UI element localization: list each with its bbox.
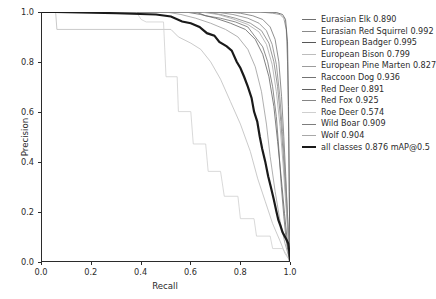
curve-eurasian-red-squirrel bbox=[42, 12, 290, 261]
legend-item[interactable]: Eurasian Elk 0.890 bbox=[302, 14, 432, 26]
legend-label: European Bison 0.799 bbox=[321, 49, 410, 61]
x-tick-label: 1.0 bbox=[283, 267, 296, 277]
legend-item[interactable]: all classes 0.876 mAP@0.5 bbox=[302, 142, 432, 154]
legend-label: European Badger 0.995 bbox=[321, 37, 417, 49]
y-tick-label: 0.4 bbox=[21, 157, 34, 167]
legend-swatch-line-icon bbox=[302, 19, 316, 20]
y-tick-mark bbox=[38, 262, 41, 263]
y-tick-mark bbox=[38, 112, 41, 113]
curve-roe-deer bbox=[42, 12, 290, 261]
legend-swatch-line-icon bbox=[302, 42, 316, 43]
legend-label: all classes 0.876 mAP@0.5 bbox=[321, 142, 430, 154]
curve-wild-boar bbox=[42, 12, 290, 261]
curve-eurasian-elk bbox=[42, 12, 290, 261]
x-tick-label: 0.2 bbox=[84, 267, 97, 277]
legend-label: Eurasian Red Squirrel 0.992 bbox=[321, 26, 434, 38]
y-tick-label: 0.6 bbox=[21, 107, 34, 117]
legend-item[interactable]: Wolf 0.904 bbox=[302, 130, 432, 142]
legend-label: Wild Boar 0.909 bbox=[321, 118, 386, 130]
y-tick-mark bbox=[38, 162, 41, 163]
curve-european-badger bbox=[42, 12, 290, 261]
legend-label: Raccoon Dog 0.936 bbox=[321, 72, 400, 84]
legend-swatch-line-icon bbox=[302, 112, 316, 113]
y-tick-label: 0.8 bbox=[21, 57, 34, 67]
legend-item[interactable]: Raccoon Dog 0.936 bbox=[302, 72, 432, 84]
legend-label: Eurasian Elk 0.890 bbox=[321, 14, 396, 26]
legend-swatch-line-icon bbox=[302, 146, 316, 148]
curve-layer bbox=[42, 12, 290, 261]
legend: Eurasian Elk 0.890Eurasian Red Squirrel … bbox=[302, 14, 432, 153]
legend-swatch-line-icon bbox=[302, 66, 316, 67]
curve-all-classes bbox=[42, 12, 290, 261]
legend-item[interactable]: European Bison 0.799 bbox=[302, 49, 432, 61]
legend-item[interactable]: Red Deer 0.891 bbox=[302, 84, 432, 96]
x-axis-title: Recall bbox=[152, 281, 178, 291]
legend-label: Roe Deer 0.574 bbox=[321, 107, 384, 119]
x-tick-label: 0.6 bbox=[184, 267, 197, 277]
y-tick-mark bbox=[38, 62, 41, 63]
x-tick-mark bbox=[41, 262, 42, 265]
x-tick-mark bbox=[91, 262, 92, 265]
curve-raccoon-dog bbox=[42, 12, 290, 261]
legend-swatch-line-icon bbox=[302, 89, 316, 90]
x-tick-mark bbox=[141, 262, 142, 265]
y-tick-mark bbox=[38, 12, 41, 13]
legend-swatch-line-icon bbox=[302, 31, 316, 32]
x-tick-label: 0.4 bbox=[134, 267, 147, 277]
plot-area bbox=[41, 12, 290, 262]
y-tick-label: 0.0 bbox=[21, 257, 34, 267]
legend-swatch-line-icon bbox=[302, 124, 316, 125]
legend-item[interactable]: Wild Boar 0.909 bbox=[302, 118, 432, 130]
legend-item[interactable]: Roe Deer 0.574 bbox=[302, 107, 432, 119]
y-tick-label: 1.0 bbox=[21, 7, 34, 17]
y-tick-mark bbox=[38, 212, 41, 213]
legend-label: Wolf 0.904 bbox=[321, 130, 364, 142]
x-tick-mark bbox=[240, 262, 241, 265]
legend-item[interactable]: European Badger 0.995 bbox=[302, 37, 432, 49]
legend-swatch-line-icon bbox=[302, 54, 316, 55]
curve-wolf bbox=[42, 12, 290, 261]
legend-item[interactable]: Eurasian Red Squirrel 0.992 bbox=[302, 26, 432, 38]
legend-swatch-line-icon bbox=[302, 77, 316, 78]
y-tick-label: 0.2 bbox=[21, 207, 34, 217]
x-tick-mark bbox=[290, 262, 291, 265]
legend-label: Red Fox 0.925 bbox=[321, 95, 379, 107]
legend-item[interactable]: European Pine Marten 0.827 bbox=[302, 60, 432, 72]
legend-label: Red Deer 0.891 bbox=[321, 84, 384, 96]
curve-red-fox bbox=[42, 12, 290, 261]
legend-label: European Pine Marten 0.827 bbox=[321, 60, 436, 72]
curve-european-pine-marten bbox=[42, 12, 290, 261]
curve-red-deer bbox=[42, 12, 290, 261]
x-tick-label: 0.8 bbox=[234, 267, 247, 277]
legend-swatch-line-icon bbox=[302, 100, 316, 101]
x-tick-mark bbox=[190, 262, 191, 265]
y-axis-title: Precision bbox=[20, 118, 30, 156]
x-tick-label: 0.0 bbox=[34, 267, 47, 277]
legend-item[interactable]: Red Fox 0.925 bbox=[302, 95, 432, 107]
curve-european-bison bbox=[42, 12, 290, 261]
legend-swatch-line-icon bbox=[302, 135, 316, 136]
